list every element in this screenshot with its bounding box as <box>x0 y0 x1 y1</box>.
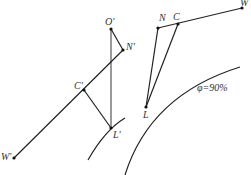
line-C-L <box>146 24 178 107</box>
point-C <box>176 22 179 25</box>
label-C-prime: C′ <box>74 80 84 91</box>
line-W-prime-N-prime <box>14 50 123 158</box>
line-O-prime-N-prime <box>111 29 123 50</box>
curve-label-phi: φ=90% <box>197 82 228 93</box>
label-C: C <box>173 11 180 22</box>
label-W: W <box>240 0 250 8</box>
label-N-prime: N′ <box>125 41 136 52</box>
point-C-prime <box>82 88 85 91</box>
line-N-L <box>146 28 158 107</box>
point-W-prime <box>12 156 15 159</box>
label-L-prime: L′ <box>112 129 122 140</box>
psychrometric-construction-diagram: O′ N′ C′ L′ W′ N C W L φ=90% <box>0 0 251 175</box>
line-C-prime-L-prime <box>84 90 111 128</box>
label-W-prime: W′ <box>1 151 12 162</box>
label-O-prime: O′ <box>105 16 115 27</box>
point-N <box>156 26 159 29</box>
point-O-prime <box>109 27 112 30</box>
line-N-W <box>158 8 242 28</box>
label-N: N <box>158 12 167 23</box>
label-L: L <box>142 109 149 120</box>
point-N-prime <box>121 48 124 51</box>
